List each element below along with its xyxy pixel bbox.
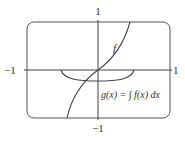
diagram-canvas: 1 −1 −1 1 f g(x) = ∫ f(x) dx: [0, 0, 185, 141]
y-min-label: −1: [92, 122, 104, 134]
curve-f-label: f: [113, 42, 118, 54]
x-max-label: 1: [173, 64, 179, 76]
y-max-label: 1: [95, 5, 101, 17]
x-min-label: −1: [4, 64, 16, 76]
curve-g-label: g(x) = ∫ f(x) dx: [101, 89, 160, 101]
